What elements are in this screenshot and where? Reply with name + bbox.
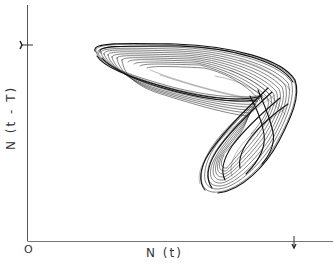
- y-tick-mark: [20, 41, 22, 49]
- y-axis-label: N (t - T): [4, 86, 18, 150]
- phase-plot: [0, 0, 333, 267]
- x-axis-label: N (t): [146, 246, 183, 260]
- origin-label: O: [24, 243, 33, 256]
- attractor-trajectory: [95, 43, 297, 193]
